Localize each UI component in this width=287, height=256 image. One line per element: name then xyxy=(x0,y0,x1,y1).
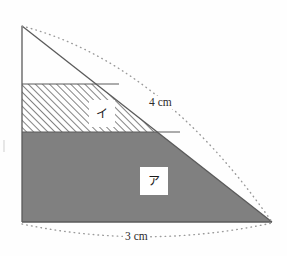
figure-canvas: ア イ 4 cm 3 cm xyxy=(0,0,287,256)
dimension-label-hypotenuse: 4 cm xyxy=(147,96,174,109)
region-label-a: ア xyxy=(140,167,168,195)
geometry-diagram xyxy=(0,0,287,256)
dimension-label-base: 3 cm xyxy=(123,230,150,243)
region-label-i: イ xyxy=(89,100,115,127)
triangle-interior xyxy=(4,26,276,237)
